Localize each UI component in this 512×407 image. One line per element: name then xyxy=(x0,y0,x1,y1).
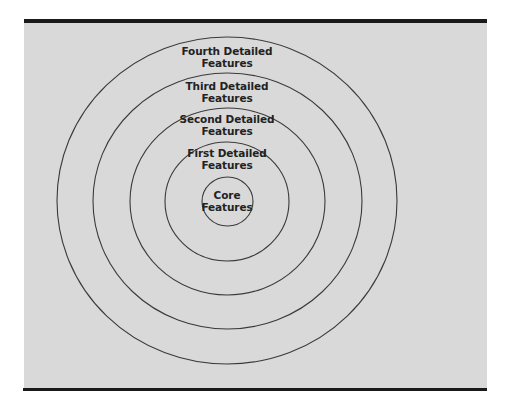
label-core: Core Features xyxy=(201,189,252,213)
label-third-detailed: Third Detailed Features xyxy=(186,80,269,104)
label-line1: First Detailed xyxy=(187,147,266,159)
label-line2: Features xyxy=(187,159,266,171)
label-line1: Fourth Detailed xyxy=(181,45,272,57)
label-line2: Features xyxy=(181,57,272,69)
label-line2: Features xyxy=(201,201,252,213)
label-line2: Features xyxy=(179,125,274,137)
label-second-detailed: Second Detailed Features xyxy=(179,113,274,137)
label-line1: Core xyxy=(201,189,252,201)
label-fourth-detailed: Fourth Detailed Features xyxy=(181,45,272,69)
label-first-detailed: First Detailed Features xyxy=(187,147,266,171)
label-line1: Third Detailed xyxy=(186,80,269,92)
label-line1: Second Detailed xyxy=(179,113,274,125)
label-line2: Features xyxy=(186,92,269,104)
